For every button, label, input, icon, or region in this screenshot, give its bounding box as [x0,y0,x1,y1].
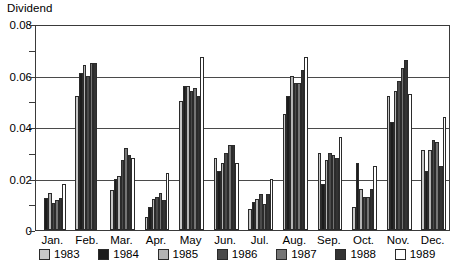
legend-swatch-icon [276,249,287,260]
legend-item[interactable]: 1984 [98,248,139,261]
legend-swatch-icon [98,249,109,260]
x-tick-label: Nov. [381,233,416,247]
bar-group [71,26,106,230]
legend-label: 1986 [232,248,258,261]
bar-group [313,26,348,230]
legend-item[interactable]: 1987 [276,248,317,261]
legend-label: 1984 [113,248,139,261]
legend-item[interactable]: 1983 [39,248,80,261]
bar-group [140,26,175,230]
bar[interactable] [339,137,343,230]
y-tick-label: 0.02 [0,174,32,186]
legend-label: 1989 [410,248,436,261]
legend-label: 1983 [54,248,80,261]
bar-group [209,26,244,230]
y-tick-label: 0.08 [0,19,32,31]
x-tick-label: Sep. [312,233,347,247]
y-axis-title: Dividend [7,2,53,15]
x-axis-labels: Jan.Feb.Mar.Apr.MayJun.Jul.Aug.Sep.Oct.N… [35,233,450,248]
legend-item[interactable]: 1986 [217,248,258,261]
x-tick-label: May [173,233,208,247]
bar-group [278,26,313,230]
x-tick-label: Jan. [35,233,70,247]
dividend-bar-chart: Dividend 00.020.040.060.08 Jan.Feb.Mar.A… [0,0,454,270]
chart-legend: 1983198419851986198719881989 [35,248,450,266]
bar-group [105,26,140,230]
x-tick-label: Mar. [104,233,139,247]
bar-group [174,26,209,230]
x-tick-label: Jul. [243,233,278,247]
bar-group [416,26,450,230]
legend-item[interactable]: 1985 [158,248,199,261]
legend-label: 1988 [350,248,376,261]
plot-area [35,25,450,231]
legend-swatch-icon [335,249,346,260]
y-tick-label: 0.06 [0,71,32,83]
x-tick-label: Apr. [139,233,174,247]
x-tick-label: Dec. [415,233,450,247]
bar[interactable] [235,163,239,230]
bar[interactable] [166,173,170,230]
bar-group [347,26,382,230]
y-tick-label: 0.04 [0,122,32,134]
legend-swatch-icon [158,249,169,260]
legend-item[interactable]: 1989 [395,248,436,261]
x-tick-label: Feb. [70,233,105,247]
x-tick-label: Aug. [277,233,312,247]
legend-swatch-icon [39,249,50,260]
x-tick-label: Oct. [346,233,381,247]
bar[interactable] [443,117,447,230]
legend-swatch-icon [217,249,228,260]
legend-label: 1987 [291,248,317,261]
bar-groups [36,26,449,230]
bar[interactable] [62,184,66,230]
bar-group [382,26,417,230]
legend-label: 1985 [173,248,199,261]
bar[interactable] [373,166,377,230]
bar-group [244,26,279,230]
y-tick-label: 0 [0,225,32,237]
bar[interactable] [93,63,97,230]
bar[interactable] [408,94,412,230]
bar[interactable] [131,158,135,230]
y-tick-mark [29,231,35,232]
bar-group [36,26,71,230]
legend-item[interactable]: 1988 [335,248,376,261]
bar[interactable] [200,57,204,230]
bar[interactable] [304,57,308,230]
bar[interactable] [270,179,274,231]
legend-swatch-icon [395,249,406,260]
x-tick-label: Jun. [208,233,243,247]
